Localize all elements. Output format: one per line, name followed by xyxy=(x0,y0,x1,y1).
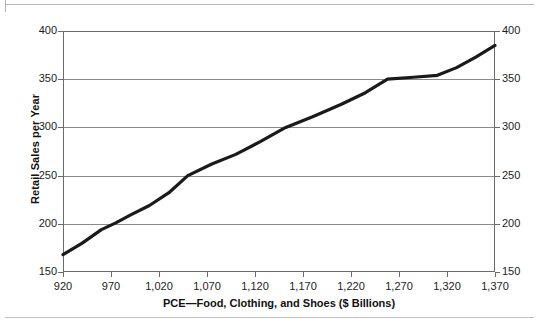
y-tick-mark-left xyxy=(58,127,63,128)
page-rule-stub xyxy=(5,0,6,12)
x-tick-mark xyxy=(63,272,64,277)
y-tick-label-left: 300 xyxy=(39,121,57,132)
y-tick-mark-right xyxy=(495,127,500,128)
y-tick-mark-right xyxy=(495,31,500,32)
y-tick-label-right: 150 xyxy=(502,266,520,277)
y-tick-label-left: 150 xyxy=(39,266,57,277)
x-axis-title: PCE—Food, Clothing, and Shoes ($ Billion… xyxy=(63,297,495,309)
x-tick-label: 1,320 xyxy=(433,280,461,292)
x-tick-mark xyxy=(111,272,112,277)
x-tick-mark xyxy=(159,272,160,277)
x-tick-label: 1,020 xyxy=(145,280,173,292)
y-tick-mark-right xyxy=(495,176,500,177)
x-tick-label: 1,220 xyxy=(337,280,365,292)
x-tick-label: 970 xyxy=(102,280,120,292)
y-tick-label-right: 350 xyxy=(502,73,520,84)
page-rule-top xyxy=(5,4,534,5)
y-tick-label-right: 250 xyxy=(502,170,520,181)
x-tick-mark xyxy=(351,272,352,277)
y-axis-right-ticks: 400350300250200150 xyxy=(502,31,537,272)
plot-area xyxy=(63,31,495,272)
y-tick-label-right: 200 xyxy=(502,218,520,229)
series-line xyxy=(63,31,495,272)
y-tick-mark-right xyxy=(495,79,500,80)
x-tick-mark xyxy=(447,272,448,277)
x-tick-label: 1,120 xyxy=(241,280,269,292)
y-tick-label-left: 250 xyxy=(39,170,57,181)
y-tick-mark-right xyxy=(495,224,500,225)
y-axis-left-ticks: 400350300250200150 xyxy=(22,31,57,272)
x-tick-label: 1,070 xyxy=(193,280,221,292)
y-tick-label-right: 300 xyxy=(502,121,520,132)
y-tick-label-left: 200 xyxy=(39,218,57,229)
x-tick-mark xyxy=(207,272,208,277)
x-tick-mark xyxy=(303,272,304,277)
y-tick-mark-right xyxy=(495,272,500,273)
y-tick-label-right: 400 xyxy=(502,25,520,36)
y-tick-mark-left xyxy=(58,79,63,80)
chart-figure: Retail Sales per Year 400350300250200150… xyxy=(0,0,537,329)
y-tick-mark-left xyxy=(58,176,63,177)
y-axis-title-host: Retail Sales per Year xyxy=(8,31,22,272)
y-tick-label-left: 350 xyxy=(39,73,57,84)
y-tick-mark-left xyxy=(58,272,63,273)
page-rule-bottom xyxy=(5,317,534,318)
x-tick-label: 1,170 xyxy=(289,280,317,292)
x-tick-mark xyxy=(255,272,256,277)
x-tick-label: 1,370 xyxy=(481,280,509,292)
x-tick-label: 920 xyxy=(54,280,72,292)
y-tick-mark-left xyxy=(58,224,63,225)
x-tick-mark xyxy=(399,272,400,277)
x-tick-label: 1,270 xyxy=(385,280,413,292)
y-tick-mark-left xyxy=(58,31,63,32)
y-tick-label-left: 400 xyxy=(39,25,57,36)
